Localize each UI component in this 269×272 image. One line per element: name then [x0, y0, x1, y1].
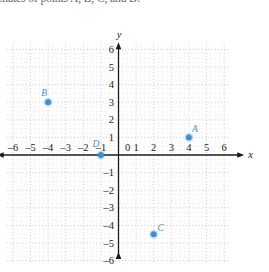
data-point-A: A: [185, 124, 198, 141]
y-tick-label-4: 4: [109, 79, 115, 90]
y-tick-label-neg1: –1: [103, 167, 115, 178]
x-tick-label-2: 2: [151, 142, 156, 153]
y-tick-label-6: 6: [109, 44, 114, 55]
y-tick-label-neg3: –3: [103, 202, 115, 213]
x-tick-label-neg5: –5: [24, 142, 36, 153]
x-tick-label-neg3: –3: [59, 142, 71, 153]
y-tick-label-2: 2: [109, 114, 114, 125]
point-marker: [186, 135, 192, 141]
point-marker: [45, 99, 51, 105]
x-tick-label-1: 1: [133, 142, 138, 153]
x-tick-label-neg2: –2: [77, 142, 89, 153]
y-tick-label-neg5: –5: [103, 238, 115, 249]
point-label-B: B: [41, 88, 47, 98]
problem-statement: ...nates of points A, B, C, and D.: [0, 0, 269, 4]
x-tick-label-neg4: –4: [42, 142, 54, 153]
y-axis-label: y: [116, 29, 122, 40]
x-tick-label-0: 0: [125, 142, 130, 153]
x-tick-label-6: 6: [221, 142, 226, 153]
y-tick-label-1: 1: [109, 132, 114, 143]
data-point-B: B: [41, 88, 52, 106]
x-tick-label-3: 3: [169, 142, 174, 153]
x-tick-label-neg6: –6: [7, 142, 19, 153]
y-tick-label-neg4: –4: [103, 220, 115, 231]
y-tick-label-neg6: –6: [103, 255, 115, 266]
y-tick-label-neg2: –2: [103, 185, 115, 196]
x-tick-label-5: 5: [204, 142, 209, 153]
x-tick-label-4: 4: [186, 142, 192, 153]
point-marker: [151, 231, 157, 237]
x-axis-label: x: [247, 149, 253, 160]
y-tick-label-3: 3: [109, 97, 114, 108]
point-label-C: C: [158, 223, 165, 233]
plot-area: –6–5–4–3–2–10123456–6–5–4–3–2–1123456xyA…: [0, 10, 269, 272]
coordinate-plane-figure: ...nates of points A, B, C, and D. –6–5–…: [0, 0, 269, 272]
y-tick-label-5: 5: [109, 62, 114, 73]
point-label-D: D: [91, 139, 99, 149]
point-label-A: A: [191, 124, 198, 134]
coordinate-grid-svg: –6–5–4–3–2–10123456–6–5–4–3–2–1123456xyA…: [0, 10, 269, 272]
point-marker: [98, 152, 104, 158]
